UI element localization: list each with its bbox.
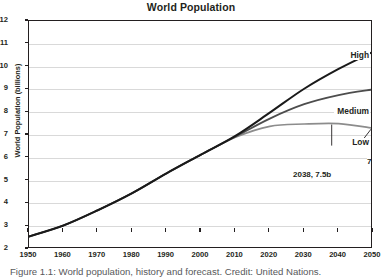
x-tick-label: 1950: [11, 251, 45, 259]
y-tick-label: 4: [0, 198, 8, 206]
x-tick-mark: [303, 228, 304, 232]
x-tick-mark: [234, 228, 235, 232]
x-tick-label: 2040: [321, 251, 355, 259]
y-tick-label: 3: [0, 221, 8, 229]
figure-caption: Figure 1.1: World population, history an…: [10, 266, 382, 278]
series-line-medium: [29, 89, 372, 236]
x-tick-label: 1960: [45, 251, 79, 259]
y-tick-mark: [25, 202, 29, 203]
x-tick-label: 1980: [114, 251, 148, 259]
series-line-high: [29, 52, 372, 237]
y-tick-label: 10: [0, 62, 8, 70]
y-tick-mark: [25, 156, 29, 157]
y-tick-label: 11: [0, 39, 8, 47]
x-tick-label: 2000: [183, 251, 217, 259]
x-tick-label: 2020: [252, 251, 286, 259]
x-tick-label: 2030: [286, 251, 320, 259]
x-tick-mark: [268, 228, 269, 232]
x-tick-label: 2010: [217, 251, 251, 259]
y-tick-label: 6: [0, 153, 8, 161]
plot-area: High Medium Low 2038, 7.5b 7.3b: [28, 20, 372, 248]
x-tick-label: 1990: [149, 251, 183, 259]
x-tick-mark: [165, 228, 166, 232]
series-label-high: High: [347, 51, 370, 60]
x-tick-mark: [131, 228, 132, 232]
series-curves: [29, 21, 372, 248]
x-tick-mark: [371, 228, 372, 232]
annotation-2038-label: 2038, 7.5b: [293, 171, 331, 179]
chart-title: World Population: [0, 1, 382, 13]
x-tick-mark: [27, 228, 28, 232]
annotation-73b-label: 7.3b: [367, 158, 372, 166]
y-tick-mark: [25, 65, 29, 66]
y-tick-label: 12: [0, 16, 8, 24]
x-tick-mark: [337, 228, 338, 232]
y-tick-mark: [25, 247, 29, 248]
series-label-medium: Medium: [334, 107, 370, 116]
x-tick-label: 1970: [80, 251, 114, 259]
series-label-low: Low: [349, 138, 370, 147]
series-line-low: [29, 123, 372, 236]
y-tick-label: 2: [0, 244, 8, 252]
y-tick-mark: [25, 42, 29, 43]
y-tick-mark: [25, 111, 29, 112]
y-axis-title: World Population (billions): [13, 36, 22, 186]
y-tick-label: 5: [0, 176, 8, 184]
y-tick-mark: [25, 88, 29, 89]
y-tick-mark: [25, 133, 29, 134]
y-tick-label: 8: [0, 107, 8, 115]
y-tick-mark: [25, 19, 29, 20]
y-tick-label: 7: [0, 130, 8, 138]
x-tick-mark: [199, 228, 200, 232]
x-tick-label: 2050: [355, 251, 382, 259]
x-tick-mark: [62, 228, 63, 232]
y-tick-mark: [25, 225, 29, 226]
y-tick-mark: [25, 179, 29, 180]
y-tick-label: 9: [0, 84, 8, 92]
figure-container: World Population World Population (billi…: [0, 0, 382, 280]
x-tick-mark: [96, 228, 97, 232]
